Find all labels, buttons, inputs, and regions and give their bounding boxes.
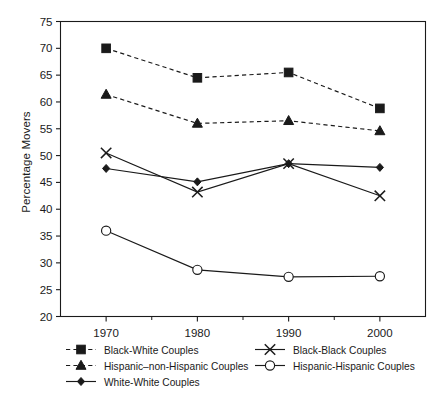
y-tick-label: 30 (40, 257, 53, 269)
data-point-hispanic-hispanic-couples-1970 (102, 226, 111, 235)
y-tick-label: 35 (40, 230, 53, 242)
x-tick-label: 1990 (276, 327, 302, 339)
x-tick-label: 2000 (367, 327, 393, 339)
data-point-white-white-couples-1980 (194, 178, 201, 186)
y-tick-label: 45 (40, 176, 53, 188)
x-tick-label: 1970 (93, 327, 119, 339)
series-line-hispanic-non-hispanic-couples (106, 94, 380, 130)
y-tick-label: 65 (40, 69, 53, 81)
data-point-hispanic-non-hispanic-couples-1990 (284, 116, 294, 125)
data-point-black-white-couples-1980 (193, 74, 202, 83)
y-tick-label: 60 (40, 96, 53, 108)
series-line-hispanic-hispanic-couples (106, 231, 380, 277)
legend-item[interactable] (62, 357, 242, 375)
y-tick-label: 70 (40, 42, 53, 54)
y-tick-label: 55 (40, 123, 53, 135)
data-point-white-white-couples-1970 (103, 164, 110, 172)
data-point-black-white-couples-1970 (102, 44, 111, 53)
legend-item[interactable] (251, 341, 431, 359)
legend-item[interactable] (62, 341, 242, 359)
y-tick-label: 20 (40, 311, 53, 323)
y-tick-label: 25 (40, 284, 53, 296)
chart-container: Percentage Movers 2025303540455055606570… (0, 0, 444, 404)
y-tick-label: 75 (40, 16, 53, 28)
series-line-black-white-couples (106, 48, 380, 108)
plot-frame (61, 22, 426, 317)
legend-item[interactable] (251, 357, 431, 375)
legend-item[interactable] (62, 373, 242, 391)
data-point-hispanic-hispanic-couples-1990 (284, 272, 293, 281)
data-point-hispanic-non-hispanic-couples-1970 (101, 89, 111, 98)
x-tick-label: 1980 (185, 327, 211, 339)
y-tick-label: 50 (40, 150, 53, 162)
data-point-white-white-couples-2000 (376, 163, 383, 171)
line-chart-plot: 2025303540455055606570751970198019902000… (0, 0, 444, 404)
y-tick-label: 40 (40, 203, 53, 215)
data-point-black-white-couples-2000 (376, 104, 385, 113)
data-point-hispanic-hispanic-couples-1980 (193, 265, 202, 274)
data-point-hispanic-hispanic-couples-2000 (375, 272, 384, 281)
data-point-black-white-couples-1990 (284, 68, 293, 77)
series-line-white-white-couples (106, 164, 380, 182)
